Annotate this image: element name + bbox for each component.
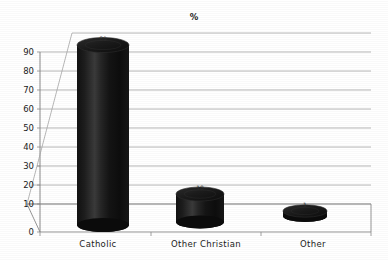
y-tick-label: 10	[23, 199, 34, 209]
category-label-catholic: Catholic	[79, 239, 116, 249]
chart-container: %	[0, 0, 388, 260]
data-label-other: 1	[303, 201, 307, 208]
bar-catholic[interactable]: 89	[77, 35, 129, 232]
y-tick-label: 90	[23, 47, 34, 57]
bar-other-christian[interactable]: 10	[176, 184, 224, 229]
y-tick-label: 60	[23, 104, 34, 114]
y-tick-label: 70	[23, 85, 34, 95]
category-label-other: Other	[300, 239, 326, 249]
y-tick-label: 80	[23, 66, 34, 76]
y-tick-label: 0	[29, 227, 34, 237]
y-tick-label: 30	[23, 161, 34, 171]
y-tick-label: 40	[23, 142, 34, 152]
category-label-other-christian: Other Christian	[171, 239, 241, 249]
data-label-other-christian: 10	[196, 184, 204, 191]
y-tick-label: 20	[23, 180, 34, 190]
chart-title: %	[190, 12, 199, 22]
data-label-catholic: 89	[99, 35, 107, 42]
bar-chart: %	[0, 0, 388, 260]
y-axis-labels: 90 80 70 60 50 40 30 20 10 0	[23, 47, 34, 237]
y-tick-label: 50	[23, 123, 34, 133]
